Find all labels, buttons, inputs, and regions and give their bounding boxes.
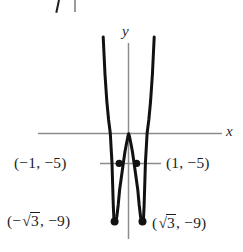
point-label-left-min: (−√3, −9) — [7, 212, 70, 229]
left-min-suffix: , −9) — [40, 212, 70, 229]
x-axis-label: x — [226, 124, 233, 139]
radical-right: √3 — [157, 214, 176, 231]
radicand-right: 3 — [166, 214, 176, 231]
marked-point-left-mid — [116, 160, 123, 167]
right-min-suffix: , −9) — [176, 214, 206, 231]
radicand-left: 3 — [30, 212, 40, 229]
marked-point-right-mid — [133, 160, 140, 167]
figure-canvas: y x (−1, −5) (1, −5) (−√3, −9) (√3, −9) — [0, 0, 243, 252]
point-label-right-mid: (1, −5) — [166, 155, 210, 171]
marked-point-left-min — [111, 218, 119, 226]
y-axis-label: y — [122, 24, 129, 39]
point-label-left-mid: (−1, −5) — [14, 155, 67, 171]
marked-point-right-min — [139, 218, 147, 226]
radical-left: √3 — [21, 212, 40, 229]
point-label-right-min: (√3, −9) — [152, 214, 206, 231]
left-min-prefix: (− — [7, 212, 21, 229]
